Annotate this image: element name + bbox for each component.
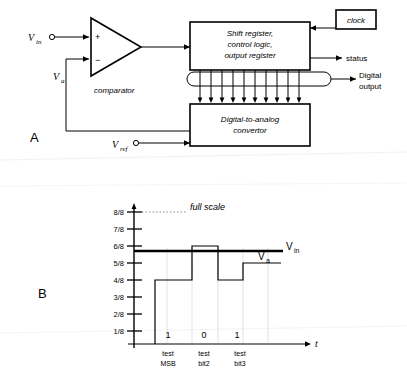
panel-a-letter: A <box>30 130 39 145</box>
vin-label-sub: in <box>36 38 42 46</box>
y-tick-label-8: 8/8 <box>114 208 124 217</box>
panel-b-letter: B <box>38 286 47 301</box>
test-label-0-line-1: test <box>162 350 173 357</box>
dac-line-1: Digital-to-analog <box>221 115 280 124</box>
y-tick-label-7: 7/8 <box>114 225 124 234</box>
test-label-1-line-1: test <box>198 350 209 357</box>
y-tick-label-3: 3/8 <box>114 293 124 302</box>
comparator-caption: comparator <box>94 86 135 95</box>
x-axis-label: t <box>315 338 318 349</box>
test-label-0-line-2: MSB <box>160 360 176 367</box>
vin-series-label: V <box>286 241 293 252</box>
test-label-2-line-1: test <box>234 350 245 357</box>
clock-label: clock <box>347 16 366 25</box>
shift-register-line-3: output register <box>224 51 275 60</box>
bit-value-2: 1 <box>234 330 239 340</box>
bit-value-0: 1 <box>165 330 170 340</box>
vin-series-label-sub: in <box>294 247 300 254</box>
va-series-label-sub: a <box>266 257 270 264</box>
y-tick-label-2: 2/8 <box>114 310 124 319</box>
y-tick-label-5: 5/8 <box>114 259 124 268</box>
dac-block <box>190 104 310 146</box>
y-tick-label-4: 4/8 <box>114 276 124 285</box>
digital-output-line-2: output <box>359 82 382 91</box>
shift-register-line-1: Shift register, <box>227 29 274 38</box>
figure-svg: A V in + − comparator V a Shift register… <box>0 0 407 379</box>
bit-value-1: 0 <box>201 330 206 340</box>
comparator-minus-sign: − <box>95 55 100 65</box>
va-label-sub: a <box>61 77 65 85</box>
test-label-1-line-2: bit2 <box>198 360 209 367</box>
digital-bus <box>187 72 331 86</box>
comparator-plus-sign: + <box>95 32 100 42</box>
shift-register-line-2: control logic, <box>228 40 273 49</box>
va-series-label: V <box>258 251 265 262</box>
status-label: status <box>346 54 367 63</box>
test-label-2-line-2: bit3 <box>234 360 245 367</box>
full-scale-label: full scale <box>190 202 225 212</box>
vref-label-sub: ref <box>120 145 129 153</box>
figure-root: A V in + − comparator V a Shift register… <box>0 0 407 379</box>
dac-line-2: convertor <box>233 126 267 135</box>
digital-output-line-1: Digital <box>359 71 381 80</box>
y-tick-label-6: 6/8 <box>114 242 124 251</box>
y-tick-label-1: 1/8 <box>114 327 124 336</box>
